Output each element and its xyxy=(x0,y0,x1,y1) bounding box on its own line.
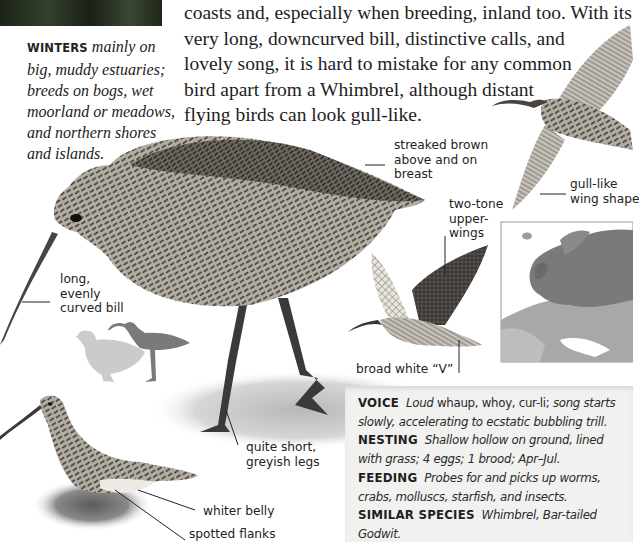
similar-species-text: Godwit. xyxy=(358,527,401,541)
nesting-entry: NESTING Shallow hollow on ground, lined … xyxy=(358,431,633,468)
voice-entry: VOICE Loud whaup, whoy, cur-li; song sta… xyxy=(358,394,633,431)
annotation-line: greyish legs xyxy=(246,455,320,470)
nesting-text: Shallow hollow on ground, lined xyxy=(425,433,604,447)
annotation-broad-v: broad white “V” xyxy=(356,362,453,377)
annotation-line: curved bill xyxy=(60,301,124,316)
annotation-line: gull-like xyxy=(570,177,639,192)
voice-key: VOICE xyxy=(358,396,399,410)
similar-species-text: Whimbrel, Bar-tailed xyxy=(482,508,597,522)
feeding-text: Probes for and picks up worms, xyxy=(424,471,601,485)
annotation-line: wing shape xyxy=(570,192,639,207)
annotation-line: breast xyxy=(394,167,488,182)
annotation-legs: quite short, greyish legs xyxy=(246,440,320,469)
annotation-line: two-tone xyxy=(449,197,503,212)
feeding-text: crabs, molluscs, starfish, and insects. xyxy=(358,490,568,504)
curlew-flight-two-tone-illustration xyxy=(348,245,488,347)
feeding-entry: FEEDING Probes for and picks up worms, c… xyxy=(358,469,633,506)
voice-text: Loud xyxy=(406,396,434,410)
annotation-belly: whiter belly xyxy=(203,504,274,519)
nesting-key: NESTING xyxy=(358,433,418,447)
nesting-text: with grass; 4 eggs; 1 brood; Apr–Jul. xyxy=(358,452,560,466)
similar-species-key: SIMILAR SPECIES xyxy=(358,508,475,522)
annotation-line: long, xyxy=(60,272,124,287)
europe-range-map xyxy=(501,222,633,362)
voice-text: song starts xyxy=(549,396,615,410)
voice-text: slowly, accelerating to ecstatic bubblin… xyxy=(358,415,607,429)
annotation-line: above and on xyxy=(394,153,488,168)
annotation-line: evenly xyxy=(60,287,124,302)
feeding-key: FEEDING xyxy=(358,471,417,485)
voice-call: whaup, whoy, cur-li; xyxy=(434,396,550,410)
annotation-line: streaked brown xyxy=(394,138,488,153)
annotation-bill: long, evenly curved bill xyxy=(60,272,124,316)
annotation-gull-wing: gull-like wing shape xyxy=(570,177,639,206)
annotation-line: upper- xyxy=(449,212,503,227)
similar-species-entry: SIMILAR SPECIES Whimbrel, Bar-tailed God… xyxy=(358,506,633,542)
annotation-line: quite short, xyxy=(246,440,320,455)
annotation-streaked: streaked brown above and on breast xyxy=(394,138,488,182)
annotation-flanks: spotted flanks xyxy=(189,527,276,542)
annotation-two-tone: two-tone upper- wings xyxy=(449,197,503,241)
annotation-line: wings xyxy=(449,226,503,241)
size-silhouettes xyxy=(76,322,190,382)
species-info-box: VOICE Loud whaup, whoy, cur-li; song sta… xyxy=(345,386,633,542)
